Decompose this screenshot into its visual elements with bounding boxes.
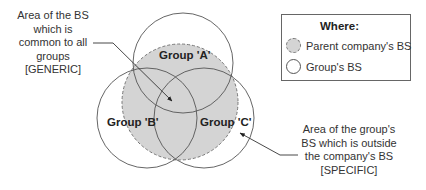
generic-line-1: Area of the BS xyxy=(5,9,101,23)
generic-line-5: [GENERIC] xyxy=(5,63,101,77)
specific-line-2: BS which is outside xyxy=(294,137,404,151)
specific-line-4: [SPECIFIC] xyxy=(294,164,404,178)
legend-item-parent: Parent company's BS xyxy=(286,38,411,53)
group-a-label: Group 'A' xyxy=(159,49,210,61)
outline-circle-icon xyxy=(286,59,301,74)
group-c-label: Group 'C' xyxy=(200,116,251,128)
legend-item-group: Group's BS xyxy=(286,59,362,74)
legend: Where: Parent company's BS Group's BS xyxy=(281,14,411,81)
dashed-shaded-circle-icon xyxy=(286,38,301,53)
specific-line-1: Area of the group's xyxy=(294,123,404,137)
generic-annotation: Area of the BS which is common to all gr… xyxy=(5,9,101,77)
parent-company-circle xyxy=(122,44,238,160)
specific-arrow xyxy=(240,133,298,155)
specific-line-3: the company's BS xyxy=(294,150,404,164)
specific-annotation: Area of the group's BS which is outside … xyxy=(294,123,404,177)
generic-line-4: groups xyxy=(5,50,101,64)
generic-line-3: common to all xyxy=(5,36,101,50)
legend-title: Where: xyxy=(320,20,359,32)
legend-label-group: Group's BS xyxy=(306,61,362,73)
generic-line-2: which is xyxy=(5,23,101,37)
group-b-label: Group 'B' xyxy=(107,116,158,128)
legend-label-parent: Parent company's BS xyxy=(306,40,411,52)
